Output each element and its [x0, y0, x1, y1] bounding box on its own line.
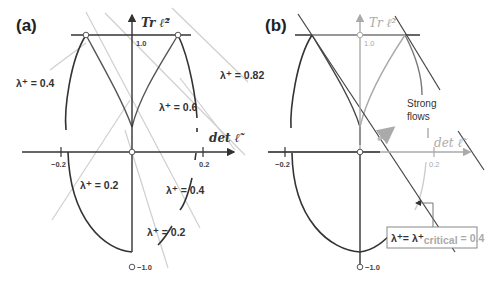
- tick-x-left: −0.2: [51, 160, 66, 169]
- critical-line: [298, 14, 455, 252]
- origin-marker: [129, 149, 135, 155]
- tick-x-left-b: −0.2: [275, 160, 290, 169]
- panel-b: (b) 1.0 −1.0 −0.2: [265, 14, 484, 272]
- lambda-label: λ⁺ = 0.6: [159, 101, 198, 113]
- point-marker: [83, 32, 89, 38]
- tick-y-top: 1.0: [136, 39, 146, 48]
- strong-flows-arrow-icon: [378, 128, 393, 140]
- point-marker: [129, 264, 135, 270]
- tick-y-bottom: −1.0: [137, 263, 152, 272]
- lambda-label: λ⁺ = 0.2: [80, 179, 119, 191]
- panel-b-label: (b): [265, 16, 287, 35]
- y-axis-title-a: Tr ℓ̃²: [141, 16, 170, 30]
- panel-a: (a) 1: [16, 8, 264, 272]
- lambda-label: λ⁺ = 0.82: [220, 69, 264, 81]
- critical-line-upper: [395, 16, 440, 90]
- point-marker: [175, 32, 181, 38]
- strong-flows-label: Strong: [407, 98, 436, 109]
- tick-y-top-b: 1.0: [364, 39, 374, 48]
- y-axis-title-b: Tr ℓ̃²: [369, 16, 397, 30]
- x-axis-title-a: det ℓ̃: [209, 131, 245, 145]
- lambda-label: λ⁺ = 0.4: [16, 77, 55, 89]
- lambda-label: λ⁺ = 0.2: [147, 226, 186, 238]
- lambda-label: λ⁺ = 0.4: [166, 184, 205, 196]
- tick-x-right: 0.2: [199, 160, 209, 169]
- critical-lambda-text: λ⁺= λ⁺critical= 0.4: [391, 232, 484, 246]
- panel-a-label: (a): [16, 16, 37, 35]
- tick-x-right-b: 0.2: [429, 160, 439, 169]
- tick-y-bottom-b: −1.0: [365, 263, 380, 272]
- x-axis-title-b: det ℓ̃: [434, 136, 467, 150]
- strong-flows-label-2: flows: [407, 111, 430, 122]
